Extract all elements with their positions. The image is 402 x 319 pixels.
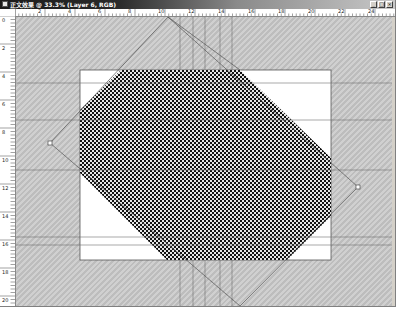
ruler-label: 14 [2,214,8,219]
title-bar[interactable]: 正文效果 @ 33.3% (Layer 6, RGB) _ □ × [0,0,395,9]
ruler-label: 8 [2,130,5,135]
ruler-label: 20 [308,9,314,14]
ruler-label: 10 [158,9,164,14]
ruler-label: 4 [2,74,5,79]
document-window: 正文效果 @ 33.3% (Layer 6, RGB) _ □ × 2 4 6 … [0,0,396,307]
ruler-label: 14 [218,9,224,14]
horizontal-ruler[interactable]: 2 4 6 8 10 12 14 16 18 20 22 24 [15,9,395,17]
ruler-label: 4 [68,9,71,14]
ruler-label: 8 [128,9,131,14]
ruler-label: 18 [278,9,284,14]
ruler-label: 20 [2,298,8,303]
close-button[interactable]: × [386,1,393,8]
vertical-ruler[interactable]: 0 2 4 6 8 10 12 14 16 18 20 [0,16,16,306]
ruler-label: 2 [38,9,41,14]
ruler-label: 18 [2,270,8,275]
window-title: 正文效果 @ 33.3% (Layer 6, RGB) [10,0,116,9]
ruler-label: 6 [2,102,5,107]
maximize-button[interactable]: □ [378,1,385,8]
ruler-label: 16 [2,242,8,247]
ruler-label: 22 [338,9,344,14]
canvas[interactable] [16,17,392,306]
ruler-label: 6 [98,9,101,14]
transform-handle-left [48,141,52,145]
document-icon [2,1,8,7]
ruler-label: 24 [368,9,374,14]
ruler-label: 16 [248,9,254,14]
ruler-label: 10 [2,158,8,163]
ruler-label: 2 [2,46,5,51]
ruler-label: 0 [2,18,5,23]
ruler-label: 12 [188,9,194,14]
minimize-button[interactable]: _ [370,1,377,8]
artwork [16,17,392,306]
transform-handle-right [356,185,360,189]
ruler-label: 12 [2,186,8,191]
